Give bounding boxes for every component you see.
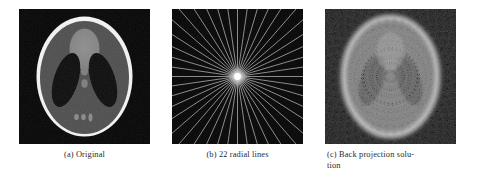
subfigure-back-projection: (c) Back projection solu- tion [325, 9, 456, 171]
subfigure-radial-lines: (b) 22 radial lines [172, 9, 303, 161]
back-projection-svg [325, 9, 456, 144]
caption-back-projection: (c) Back projection solu- tion [325, 150, 456, 171]
radial-lines-image [172, 9, 303, 144]
shepp-logan-phantom-svg [19, 9, 150, 144]
caption-radial-lines: (b) 22 radial lines [172, 150, 303, 161]
subfigure-original: (a) Original [19, 9, 150, 161]
radial-film-grain [172, 9, 303, 144]
caption-back-projection-line-2: tion [327, 161, 456, 172]
phantom-film-grain [19, 9, 150, 144]
caption-original: (a) Original [19, 150, 150, 161]
caption-back-projection-line-1: (c) Back projection solu- [327, 150, 456, 161]
figure-row: (a) Original [0, 0, 477, 182]
bp-film-grain [325, 9, 456, 144]
original-phantom-image [19, 9, 150, 144]
back-projection-image [325, 9, 456, 144]
radial-lines-svg [172, 9, 303, 144]
